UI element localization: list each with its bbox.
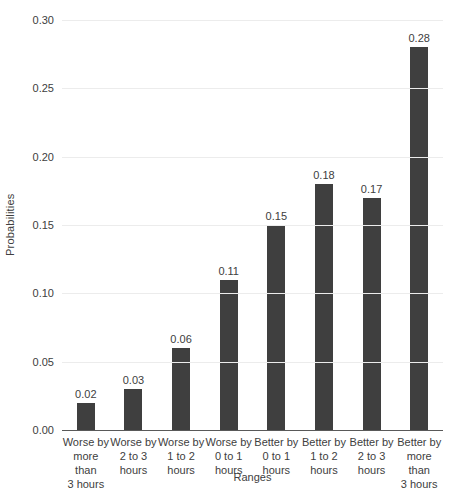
y-tick-label: 0.20 (0, 151, 54, 162)
y-tick-label: 0.25 (0, 83, 54, 94)
x-axis-title: Ranges (62, 471, 443, 483)
x-tick-label-line: 1 to 2 (157, 449, 205, 463)
gridline (62, 20, 443, 21)
x-tick-label-line: 0 to 1 (253, 449, 301, 463)
bar-value-label: 0.06 (170, 333, 191, 345)
x-tick-label-line: Worse by (205, 435, 253, 449)
bar (315, 184, 333, 430)
gridline (62, 362, 443, 363)
y-tick-label: 0.30 (0, 15, 54, 26)
bar-value-label: 0.03 (123, 374, 144, 386)
bar (172, 348, 190, 430)
bar-value-label: 0.11 (218, 265, 239, 277)
plot-area: 0.020.030.060.110.150.180.170.28 (62, 20, 443, 430)
bar (410, 47, 428, 430)
y-tick-label: 0.05 (0, 356, 54, 367)
x-tick-label-line: Better by (348, 435, 396, 449)
x-tick-label-line: 2 to 3 (110, 449, 158, 463)
bar-value-label: 0.15 (266, 210, 287, 222)
bar-value-label: 0.17 (361, 183, 382, 195)
x-tick-label-line: Better by (300, 435, 348, 449)
y-tick-label: 0.00 (0, 425, 54, 436)
x-tick-label-line: Worse by (110, 435, 158, 449)
x-tick-label-line: Better by (395, 435, 443, 449)
y-tick-label: 0.15 (0, 220, 54, 231)
bar (124, 389, 142, 430)
bar (267, 225, 285, 430)
bar (220, 280, 238, 430)
bar-value-label: 0.28 (408, 32, 429, 44)
y-axis-tick-labels: 0.000.050.100.150.200.250.30 (0, 20, 54, 430)
x-tick-label-line: 0 to 1 (205, 449, 253, 463)
bar-value-label: 0.18 (313, 169, 334, 181)
x-tick-label-line: Better by (253, 435, 301, 449)
y-tick-label: 0.10 (0, 288, 54, 299)
x-tick-label-line: Worse by (157, 435, 205, 449)
bar-value-label: 0.02 (75, 388, 96, 400)
x-tick-label-line: 2 to 3 (348, 449, 396, 463)
gridline (62, 225, 443, 226)
x-tick-label-line: Worse by (62, 435, 110, 449)
bar-chart: Probabilities 0.000.050.100.150.200.250.… (0, 0, 463, 503)
gridline (62, 157, 443, 158)
gridline (62, 88, 443, 89)
gridline (62, 293, 443, 294)
x-tick-label-line: 1 to 2 (300, 449, 348, 463)
bar (363, 198, 381, 430)
bar (77, 403, 95, 430)
x-axis-line (62, 430, 443, 432)
